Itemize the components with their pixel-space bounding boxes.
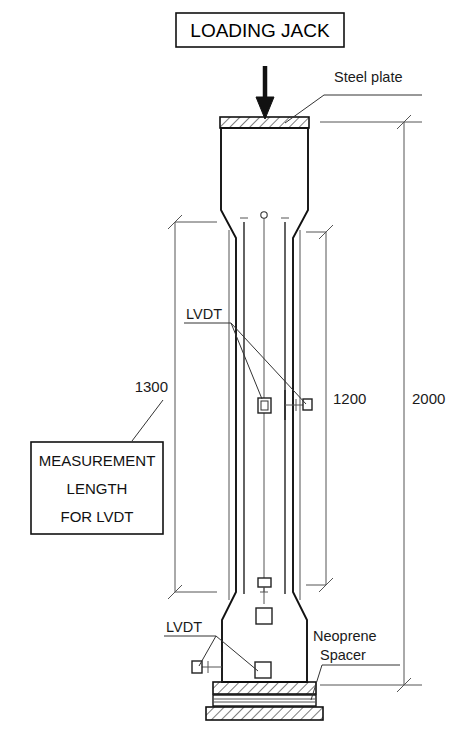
- lvdt-mid-sensor-body: [256, 608, 272, 624]
- loading-jack-label: LOADING JACK: [190, 20, 330, 41]
- measurement-note-line1: MEASUREMENT: [39, 452, 156, 469]
- bottom-steel-plate-upper: [213, 682, 316, 694]
- measurement-note-line2: LENGTH: [67, 480, 128, 497]
- lvdt-upper-bolt-head: [303, 399, 312, 410]
- steel-plate-label: Steel plate: [334, 69, 403, 85]
- neoprene-label-line1: Neoprene: [313, 628, 377, 644]
- rod-clamp-block: [258, 578, 271, 587]
- neoprene-label-line2: Spacer: [320, 647, 366, 663]
- lvdt-lower-label: LVDT: [166, 619, 202, 635]
- measurement-note-line3: FOR LVDT: [60, 508, 133, 525]
- dim-1300-value: 1300: [135, 378, 168, 395]
- rod-anchor-eyelet: [261, 212, 267, 218]
- lvdt-upper-label: LVDT: [186, 306, 222, 322]
- lvdt-upper-sensor-core: [261, 401, 268, 410]
- loading-jack-callout: LOADING JACK: [176, 13, 344, 47]
- neoprene-spacer-layer: [213, 695, 316, 706]
- base-steel-plate: [206, 707, 323, 720]
- dim-2000-value: 2000: [412, 390, 445, 407]
- test-setup-drawing: LOADING JACK: [0, 0, 467, 746]
- dim-1200-value: 1200: [333, 390, 366, 407]
- top-steel-plate: [220, 117, 309, 128]
- drawing-canvas: [0, 0, 467, 746]
